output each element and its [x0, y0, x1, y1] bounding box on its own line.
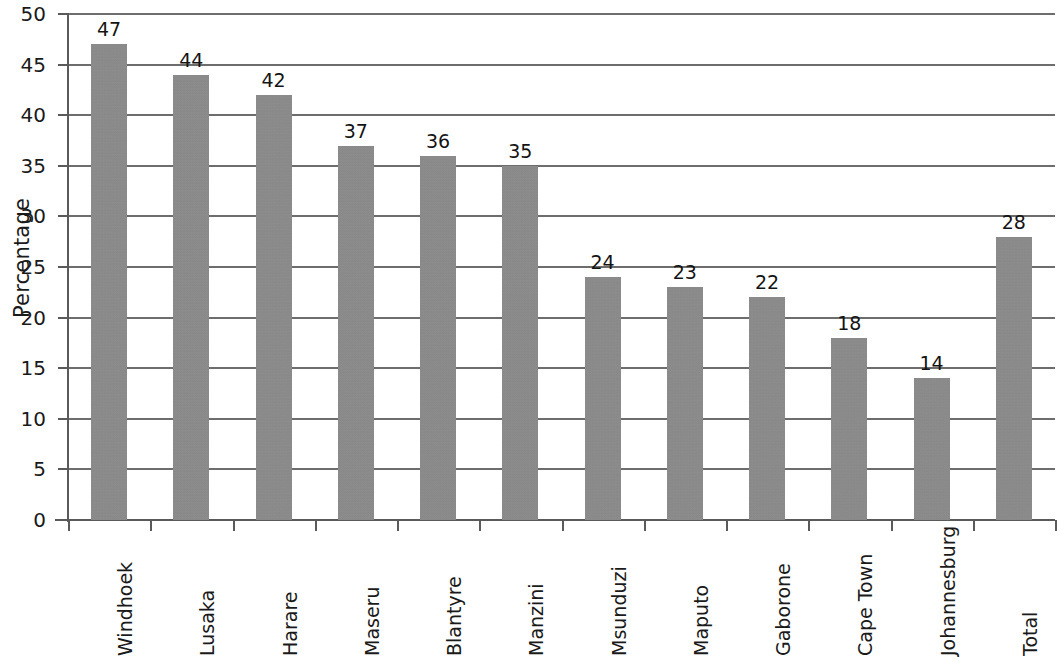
y-axis-tick-label: 25	[0, 257, 46, 277]
x-axis-tick	[644, 520, 646, 531]
x-axis-category-label: Lusaka	[198, 590, 217, 656]
x-axis-category-label: Cape Town	[856, 554, 875, 656]
x-axis-tick	[479, 520, 481, 531]
bar[interactable]	[914, 378, 950, 520]
bar[interactable]	[585, 277, 621, 520]
bar-value-label: 18	[809, 314, 889, 333]
x-axis-tick	[68, 520, 70, 531]
bar-value-label: 28	[974, 213, 1054, 232]
x-axis-category-label: Maseru	[363, 587, 382, 656]
y-axis-tick-label: 35	[0, 156, 46, 176]
x-axis-tick	[1055, 520, 1057, 531]
x-axis-category-label: Manzini	[527, 583, 546, 656]
x-axis-tick	[891, 520, 893, 531]
y-axis-tick-label: 20	[0, 308, 46, 328]
x-axis-category-label: Maputo	[692, 585, 711, 656]
gridline	[68, 13, 1055, 15]
bar-chart: Percentage 05101520253035404550 47444237…	[0, 0, 1059, 667]
bar-value-label: 36	[398, 132, 478, 151]
x-axis-tick	[233, 520, 235, 531]
gridline	[68, 114, 1055, 116]
x-axis-tick	[808, 520, 810, 531]
bar[interactable]	[749, 297, 785, 520]
bar-value-label: 23	[645, 263, 725, 282]
x-axis-category-label: Harare	[281, 592, 300, 656]
bar-value-label: 44	[151, 51, 231, 70]
bar[interactable]	[502, 166, 538, 520]
y-axis-tick-label: 40	[0, 105, 46, 125]
gridline	[68, 165, 1055, 167]
x-axis-category-label: Gaborone	[774, 563, 793, 656]
bar-value-label: 35	[480, 142, 560, 161]
bar-value-label: 24	[563, 253, 643, 272]
gridline	[68, 215, 1055, 217]
bar-value-label: 47	[69, 20, 149, 39]
x-axis-tick	[315, 520, 317, 531]
x-axis-tick	[397, 520, 399, 531]
x-axis-tick	[562, 520, 564, 531]
y-axis-line	[67, 13, 69, 522]
y-axis-tick-label: 50	[0, 4, 46, 24]
bar-value-label: 42	[234, 71, 314, 90]
bar[interactable]	[173, 75, 209, 520]
x-axis-category-label: Windhoek	[116, 562, 135, 656]
gridline	[68, 266, 1055, 268]
y-axis-tick-label: 5	[0, 459, 46, 479]
y-axis-tick-label: 30	[0, 206, 46, 226]
x-axis-tick	[150, 520, 152, 531]
x-axis-tick	[726, 520, 728, 531]
y-axis-tick-label: 15	[0, 358, 46, 378]
x-axis-category-label: Total	[1021, 612, 1040, 656]
bar[interactable]	[996, 237, 1032, 520]
gridline	[68, 468, 1055, 470]
gridline	[68, 317, 1055, 319]
bar[interactable]	[91, 44, 127, 520]
bar[interactable]	[256, 95, 292, 520]
gridline	[68, 418, 1055, 420]
y-axis-tick-label: 45	[0, 55, 46, 75]
x-axis-category-label: Blantyre	[445, 576, 464, 656]
x-axis-category-label: Johannesburg	[939, 526, 958, 656]
x-axis-category-label: Msunduzi	[610, 566, 629, 656]
y-axis-tick-label: 0	[0, 510, 46, 530]
bar[interactable]	[667, 287, 703, 520]
bar[interactable]	[420, 156, 456, 520]
bar[interactable]	[831, 338, 867, 520]
bar[interactable]	[338, 146, 374, 520]
bar-value-label: 14	[892, 354, 972, 373]
bar-value-label: 22	[727, 273, 807, 292]
x-axis-tick	[973, 520, 975, 531]
bar-value-label: 37	[316, 122, 396, 141]
y-axis-tick-label: 10	[0, 409, 46, 429]
